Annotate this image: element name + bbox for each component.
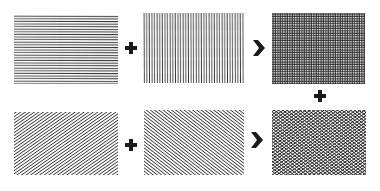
panel-vertical-hatching [143,13,244,83]
panel-crosshatch-orthogonal [272,13,365,84]
plus-icon-connector [314,90,326,102]
panel-diagonal-hatching-rising [14,112,118,175]
chevron-right-icon [251,132,263,148]
panel-diagonal-hatching-falling [144,110,244,175]
panel-crosshatch-diagonal [272,110,366,175]
plus-icon [125,42,137,54]
plus-icon [125,139,137,151]
chevron-right-icon [253,40,265,56]
panel-horizontal-hatching [14,15,118,84]
